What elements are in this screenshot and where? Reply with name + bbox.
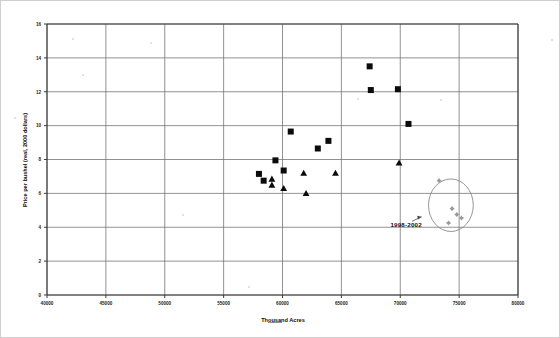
y-tick-label: 10 <box>36 123 42 128</box>
data-point-triangle <box>300 170 307 176</box>
highlight-ellipse-shape <box>429 179 474 232</box>
data-point-square <box>256 171 262 177</box>
data-point-square <box>288 129 294 135</box>
data-points <box>256 63 464 225</box>
data-point-square <box>325 138 331 144</box>
y-tick-label: 8 <box>38 157 41 162</box>
data-point-square <box>272 157 278 163</box>
y-axis-title: Price per bushel (real, 2000 dollars) <box>22 113 28 207</box>
data-point-triangle <box>396 159 403 165</box>
data-point-square <box>367 63 373 69</box>
axis-ticks <box>44 24 518 298</box>
data-point-triangle <box>332 170 339 176</box>
data-point-triangle <box>269 176 276 182</box>
highlight-ellipse <box>429 179 474 232</box>
x-axis-tick-labels: 4000045000500005500060000650007000075000… <box>41 301 525 306</box>
data-point-square <box>281 168 287 174</box>
y-tick-label: 0 <box>38 293 41 298</box>
y-tick-label: 16 <box>36 22 42 27</box>
x-tick-label: 50000 <box>158 301 171 306</box>
x-tick-label: 80000 <box>512 301 525 306</box>
y-tick-label: 2 <box>38 259 41 264</box>
x-tick-label: 60000 <box>276 301 289 306</box>
gridlines <box>47 24 518 295</box>
x-tick-label: 70000 <box>394 301 407 306</box>
footer-dash <box>268 322 282 323</box>
data-point-triangle <box>269 182 276 188</box>
x-tick-label: 45000 <box>99 301 112 306</box>
x-tick-label: 65000 <box>335 301 348 306</box>
data-point-square <box>261 178 267 184</box>
annotations: 1998-2002 <box>390 216 422 228</box>
x-tick-label: 40000 <box>41 301 54 306</box>
data-point-square <box>395 86 401 92</box>
x-tick-label: 55000 <box>217 301 230 306</box>
y-axis-tick-labels: 0246810121416 <box>36 22 42 298</box>
y-tick-label: 4 <box>38 225 41 230</box>
annotation-label-1998-2002: 1998-2002 <box>390 221 422 228</box>
data-point-triangle <box>280 185 287 191</box>
data-point-square <box>405 121 411 127</box>
y-tick-label: 6 <box>38 191 41 196</box>
data-point-square <box>315 145 321 151</box>
y-tick-label: 14 <box>36 56 42 61</box>
y-tick-label: 12 <box>36 90 42 95</box>
data-point-square <box>368 87 374 93</box>
x-tick-label: 75000 <box>453 301 466 306</box>
